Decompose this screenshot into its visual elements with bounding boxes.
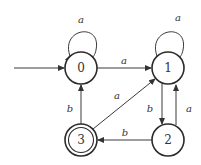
state-2: 2 [152, 124, 184, 156]
edge-label-0-1: a [121, 55, 127, 66]
edge-label-2-3: b [122, 127, 128, 138]
edge-3-1 [93, 79, 155, 129]
state-label-1: 1 [164, 61, 172, 75]
state-label-2: 2 [164, 133, 172, 147]
edge-label-0-0: a [78, 14, 84, 25]
state-label-0: 0 [77, 61, 85, 75]
edge-label-1-2: b [147, 103, 153, 114]
edge-label-3-1: a [114, 90, 120, 101]
edge-label-3-0: b [67, 103, 73, 114]
state-1: 1 [152, 52, 184, 84]
state-label-3: 3 [77, 133, 85, 147]
state-0: 0 [65, 52, 97, 84]
edge-label-2-1: a [186, 103, 192, 114]
state-3-accepting: 3 [65, 124, 97, 156]
state-diagram: a a a b a b b a 0 1 2 3 [0, 0, 201, 165]
edge-label-1-1: a [175, 12, 181, 23]
